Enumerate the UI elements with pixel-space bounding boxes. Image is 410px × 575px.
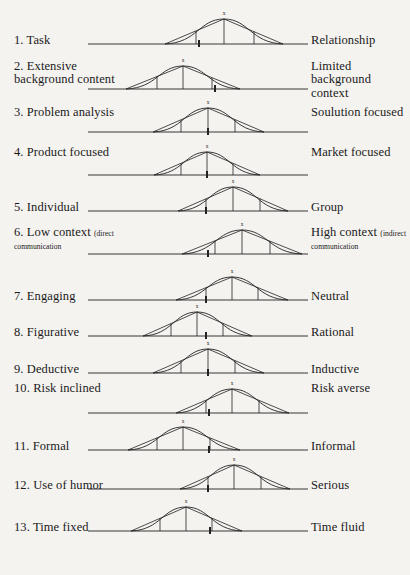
diagram-sheet: x1. TaskRelationshipx2. Extensive backgr… [0,0,410,575]
left-pole-label: 13. Time fixed [14,521,124,534]
distribution-curve [176,277,288,300]
left-pole-label: 1. Task [14,34,124,47]
distribution-curve [178,187,288,211]
curve-right-chord [234,465,290,489]
left-pole-label: 4. Product focused [14,146,124,159]
left-pole-label: 9. Deductive [14,363,124,376]
curve-left-chord [153,108,208,132]
right-pole-text: Relationship [311,33,375,47]
peak-x-marker: x [207,341,210,346]
right-pole-label: Soulution focused [311,106,409,119]
scale-graphic: x [0,0,410,60]
peak-x-marker: x [196,304,199,309]
right-pole-label: Rational [311,326,409,339]
curve-right-chord [233,187,288,211]
distribution-curve [126,66,240,89]
curve-left-chord [176,277,232,300]
right-pole-text: Soulution focused [311,105,403,119]
curve-left-chord [131,507,186,531]
right-pole-text: Informal [311,439,356,453]
scale-graphic: x [0,0,410,60]
curve-left-chord [176,389,232,413]
curve-right-chord [224,19,283,44]
left-pole-text: 10. Risk inclined [14,381,101,395]
left-pole-text: 3. Problem analysis [14,105,114,119]
scale-graphic: x [0,0,410,60]
distribution-curve [143,312,252,336]
right-pole-text: Rational [311,325,354,339]
right-pole-text: Limited background context [311,59,371,100]
curve-right-chord [242,230,302,254]
peak-x-marker: x [233,457,236,462]
peak-x-marker: x [232,179,235,184]
left-pole-label: 10. Risk inclined [14,382,124,395]
left-pole-text: 9. Deductive [14,362,79,376]
curve-left-chord [180,465,234,489]
right-pole-text: High context [311,225,377,239]
peak-x-marker: x [241,222,244,227]
left-pole-label: 2. Extensive background content [14,60,124,87]
curve-right-chord [186,507,242,531]
right-pole-label: Group [311,201,409,214]
curve-left-chord [154,152,207,175]
distribution-curve [128,427,240,450]
scale-graphic: x [0,0,410,60]
right-pole-text: Risk averse [311,381,370,395]
curve-left-chord [128,427,183,450]
curve-right-chord [208,349,264,373]
left-pole-text: 2. Extensive background content [14,59,115,86]
right-pole-label: Inductive [311,363,409,376]
scale-graphic: x [0,0,410,60]
right-pole-label: Relationship [311,34,409,47]
left-pole-label: 7. Engaging [14,290,124,303]
left-pole-label: 5. Individual [14,201,124,214]
peak-x-marker: x [182,419,185,424]
left-pole-text: 12. Use of humor [14,478,103,492]
left-pole-label: 6. Low context (direct communication [14,226,124,253]
distribution-curve [180,465,290,489]
scale-graphic: x [0,0,410,60]
left-pole-text: 6. Low context [14,225,91,239]
left-pole-text: 5. Individual [14,200,79,214]
left-pole-label: 11. Formal [14,440,124,453]
distribution-curve [165,19,283,44]
right-pole-text: Serious [311,478,349,492]
left-pole-label: 3. Problem analysis [14,106,124,119]
distribution-curve [153,349,264,373]
scale-graphic: x [0,0,410,60]
curve-right-chord [208,108,264,132]
right-pole-text: Time fluid [311,520,365,534]
distribution-curve [182,230,302,254]
scale-graphic: x [0,0,410,60]
curve-left-chord [143,312,197,336]
right-pole-label: Informal [311,440,409,453]
scale-graphic: x [0,0,410,60]
scale-graphic: x [0,0,410,60]
scale-graphic: x [0,0,410,60]
left-pole-text: 7. Engaging [14,289,76,303]
curve-right-chord [207,152,260,175]
scale-graphic: x [0,0,410,60]
peak-x-marker: x [231,269,234,274]
right-pole-label: Neutral [311,290,409,303]
left-pole-text: 8. Figurative [14,325,79,339]
scale-graphic: x [0,0,410,60]
left-pole-text: 1. Task [14,33,50,47]
left-pole-text: 11. Formal [14,439,69,453]
right-pole-text: Neutral [311,289,349,303]
curve-right-chord [232,389,289,413]
curve-right-chord [183,66,240,89]
curve-right-chord [232,277,288,300]
peak-x-marker: x [223,11,226,16]
right-pole-text: Group [311,200,343,214]
right-pole-label: Market focused [311,146,409,159]
right-pole-label: Limited background context [311,60,409,100]
curve-right-chord [183,427,240,450]
curve-left-chord [182,230,242,254]
left-pole-label: 8. Figurative [14,326,124,339]
distribution-curve [153,108,264,132]
distribution-curve [131,507,242,531]
distribution-curve [154,152,260,175]
curve-left-chord [126,66,183,89]
right-pole-label: High context (indirect communication [311,226,409,253]
